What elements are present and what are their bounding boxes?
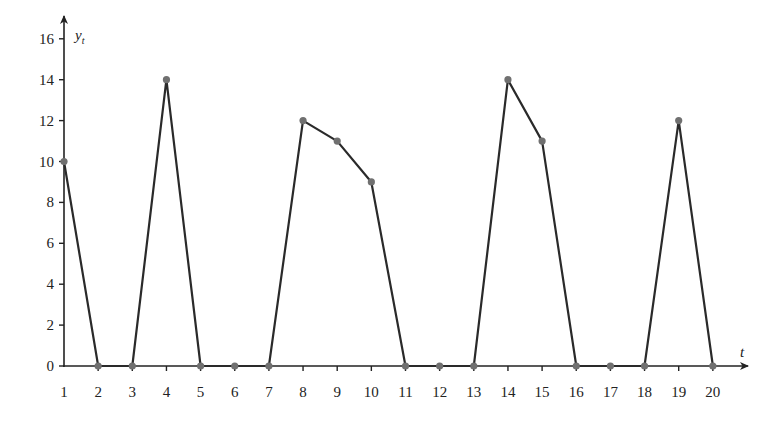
data-point — [197, 362, 204, 369]
line-chart: 0246810121416 12345678910111213141516171… — [0, 0, 781, 424]
data-point-markers — [60, 76, 716, 370]
y-tick-label: 2 — [47, 317, 55, 333]
x-tick-label: 18 — [637, 384, 652, 400]
x-tick-label: 1 — [60, 384, 68, 400]
data-point — [675, 117, 682, 124]
x-axis-ticks: 1234567891011121314151617181920 — [60, 366, 720, 400]
y-axis-label: yt — [73, 27, 85, 46]
y-tick-label: 0 — [47, 358, 55, 374]
x-tick-label: 16 — [569, 384, 585, 400]
data-point — [231, 362, 238, 369]
data-point — [334, 137, 341, 144]
data-point — [265, 362, 272, 369]
series-line — [64, 80, 713, 366]
x-tick-label: 5 — [197, 384, 205, 400]
data-point — [641, 362, 648, 369]
data-point — [129, 362, 136, 369]
data-point — [607, 362, 614, 369]
x-tick-label: 11 — [398, 384, 412, 400]
x-tick-label: 12 — [432, 384, 447, 400]
y-tick-label: 8 — [47, 194, 55, 210]
x-tick-label: 10 — [364, 384, 379, 400]
x-tick-label: 17 — [603, 384, 619, 400]
x-tick-label: 2 — [94, 384, 102, 400]
y-tick-label: 14 — [39, 72, 55, 88]
data-point — [163, 76, 170, 83]
y-tick-label: 6 — [47, 235, 55, 251]
x-tick-label: 13 — [466, 384, 481, 400]
data-point — [470, 362, 477, 369]
data-point — [299, 117, 306, 124]
y-tick-label: 10 — [39, 154, 54, 170]
data-point — [436, 362, 443, 369]
x-axis-label: t — [740, 344, 745, 360]
y-tick-label: 16 — [39, 31, 55, 47]
data-point — [573, 362, 580, 369]
x-tick-label: 4 — [163, 384, 171, 400]
y-tick-label: 4 — [47, 276, 55, 292]
x-tick-label: 19 — [671, 384, 686, 400]
data-point — [402, 362, 409, 369]
data-point — [95, 362, 102, 369]
x-tick-label: 7 — [265, 384, 273, 400]
x-tick-label: 20 — [705, 384, 720, 400]
x-tick-label: 3 — [129, 384, 137, 400]
x-tick-label: 9 — [333, 384, 341, 400]
data-point — [368, 178, 375, 185]
x-tick-label: 14 — [500, 384, 516, 400]
data-point — [504, 76, 511, 83]
x-tick-label: 15 — [535, 384, 550, 400]
data-point — [539, 137, 546, 144]
x-tick-label: 8 — [299, 384, 307, 400]
x-tick-label: 6 — [231, 384, 239, 400]
y-tick-label: 12 — [39, 113, 54, 129]
y-axis-ticks: 0246810121416 — [39, 31, 64, 374]
data-point — [60, 158, 67, 165]
data-point — [709, 362, 716, 369]
